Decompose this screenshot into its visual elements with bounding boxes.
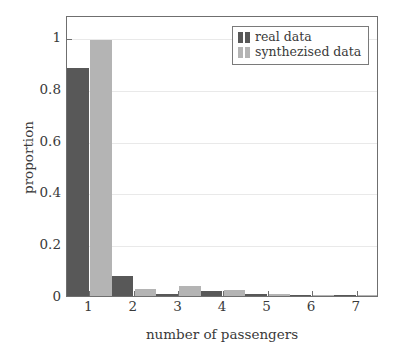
- bar-synthezised-data-5: [268, 294, 290, 296]
- bar-real-data-1: [67, 68, 89, 296]
- bar-synthezised-data-6: [313, 295, 335, 296]
- bar-real-data-4: [201, 291, 223, 296]
- bar-real-data-7: [334, 295, 356, 296]
- x-tick-mark: [223, 291, 224, 296]
- legend-item-synthezised-data: synthezised data: [238, 45, 361, 60]
- x-tick-label: 7: [351, 300, 360, 314]
- x-tick-mark: [178, 291, 179, 296]
- legend-label: real data: [255, 31, 312, 44]
- bar-real-data-5: [245, 294, 267, 296]
- y-tick-mark: [67, 39, 72, 40]
- chart-legend: real data synthezised data: [232, 26, 369, 65]
- bar-synthezised-data-7: [357, 295, 378, 296]
- bar-synthezised-data-2: [135, 289, 157, 296]
- legend-swatch-synthezised-data: [238, 47, 250, 58]
- y-tick-label: 0.6: [28, 135, 66, 149]
- legend-label: synthezised data: [255, 46, 361, 59]
- y-axis-tick-labels: 00.20.40.60.81: [28, 0, 66, 359]
- bar-real-data-3: [156, 294, 178, 296]
- legend-swatch-real-data: [238, 32, 250, 43]
- gridline: [67, 143, 377, 144]
- x-tick-label: 4: [218, 300, 227, 314]
- x-axis-label: number of passengers: [66, 326, 378, 342]
- bar-synthezised-data-1: [90, 40, 112, 296]
- legend-swatch-block: [238, 47, 243, 58]
- y-tick-label: 0.2: [28, 238, 66, 252]
- x-axis-tick-labels: 1234567: [66, 300, 378, 322]
- bar-real-data-2: [112, 276, 134, 296]
- x-tick-mark: [89, 291, 90, 296]
- x-tick-label: 5: [262, 300, 271, 314]
- legend-swatch-block: [238, 32, 243, 43]
- legend-swatch-block: [245, 32, 250, 43]
- x-tick-mark: [268, 291, 269, 296]
- bar-chart-figure: proportion 00.20.40.60.81 1234567 number…: [0, 0, 396, 359]
- bar-synthezised-data-4: [224, 290, 246, 296]
- gridline: [67, 194, 377, 195]
- x-tick-mark: [357, 291, 358, 296]
- x-tick-label: 3: [173, 300, 182, 314]
- x-tick-label: 2: [129, 300, 138, 314]
- x-tick-label: 1: [84, 300, 93, 314]
- legend-swatch-block: [245, 47, 250, 58]
- y-tick-label: 1: [28, 31, 66, 45]
- bar-synthezised-data-3: [179, 286, 201, 296]
- bar-real-data-6: [290, 295, 312, 296]
- x-tick-mark: [312, 291, 313, 296]
- x-tick-mark: [134, 291, 135, 296]
- y-tick-label: 0.8: [28, 83, 66, 97]
- y-tick-label: 0.4: [28, 187, 66, 201]
- y-tick-label: 0: [28, 290, 66, 304]
- gridline: [67, 91, 377, 92]
- gridline: [67, 246, 377, 247]
- x-tick-label: 6: [307, 300, 316, 314]
- legend-item-real-data: real data: [238, 30, 361, 45]
